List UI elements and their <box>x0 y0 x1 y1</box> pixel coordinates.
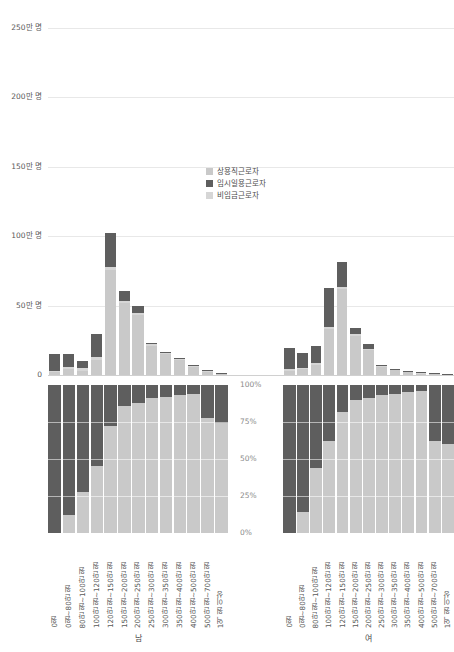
count-bar-segment <box>174 358 185 359</box>
category-label: 150만 원~200만 원 <box>349 562 362 628</box>
category-label-text: 100만 원~120만 원 <box>93 562 100 628</box>
count-bar <box>119 291 130 375</box>
category-label: 400만 원~500만 원 <box>415 562 428 628</box>
percent-axis-tick: 25% <box>240 492 257 500</box>
count-bar-segment <box>132 313 143 315</box>
count-bar <box>284 348 295 375</box>
category-label: 0원~80만 원 <box>296 585 309 628</box>
category-label: 300만 원~350만 원 <box>159 562 173 628</box>
count-bar-segment <box>390 369 401 370</box>
count-bar-segment <box>160 352 171 353</box>
count-bar <box>363 344 374 375</box>
percent-bar-segment <box>201 385 214 418</box>
count-bar-segment <box>337 287 348 289</box>
percent-bar-segment <box>145 385 158 398</box>
count-bar <box>202 370 213 375</box>
count-bar-segment <box>174 359 185 360</box>
count-bar-segment <box>132 315 143 375</box>
percent-bar-segment <box>362 385 374 398</box>
count-bar-segment <box>91 334 102 356</box>
category-label: 300만 원~350만 원 <box>388 562 401 628</box>
count-bar-segment <box>146 344 157 345</box>
percent-gridline <box>48 496 228 497</box>
category-label-text: 200만 원~250만 원 <box>134 562 141 628</box>
count-bar-segment <box>284 369 295 371</box>
category-label-text: 80만 원~100만 원 <box>312 567 319 628</box>
category-label-text: 350만 원~400만 원 <box>176 562 183 628</box>
category-label-text: 120만 원~150만 원 <box>339 562 346 628</box>
percent-gridline <box>283 496 454 497</box>
percent-bar-segment <box>428 385 440 441</box>
count-bar-segment <box>297 369 308 375</box>
count-bar-segment <box>390 369 401 370</box>
category-label-text: 80만 원~100만 원 <box>79 567 86 628</box>
percent-bar-segment <box>62 515 75 533</box>
count-bar-segment <box>202 372 213 375</box>
count-gridline <box>48 375 454 376</box>
percent-bar-segment <box>90 466 103 533</box>
percent-bar-segment <box>336 385 348 412</box>
facet-label-여: 여 <box>283 632 454 643</box>
percent-bar-segment <box>362 398 374 533</box>
category-label: 1억 원 이상 <box>214 591 228 628</box>
category-label-text: 500만 원~700만 원 <box>431 562 438 628</box>
percent-bar-segment <box>215 423 228 533</box>
percent-bar-segment <box>428 441 440 533</box>
count-bar-segment <box>284 348 295 370</box>
category-label: 250만 원~300만 원 <box>375 562 388 628</box>
category-label-text: 1억 원 이상 <box>217 591 224 628</box>
category-label: 500만 원~700만 원 <box>428 562 441 628</box>
percent-bar-segment <box>131 385 144 403</box>
legend-swatch-0 <box>206 168 213 175</box>
count-bar-segment <box>429 373 440 374</box>
count-bar-segment <box>63 369 74 375</box>
count-bar-segment <box>337 262 348 287</box>
category-label-text: 0원 <box>286 616 293 628</box>
count-bar-segment <box>160 353 171 354</box>
percent-gridline <box>48 459 228 460</box>
count-bar-segment <box>63 354 74 367</box>
percent-bar-segment <box>76 385 89 492</box>
category-label: 250만 원~300만 원 <box>145 562 159 628</box>
category-label: 200만 원~250만 원 <box>362 562 375 628</box>
category-label: 100만 원~120만 원 <box>90 562 104 628</box>
percent-bar-segment <box>323 385 335 441</box>
count-bar-segment <box>350 328 361 334</box>
count-bar <box>146 343 157 375</box>
count-bar-segment <box>174 360 185 375</box>
category-label: 200만 원~250만 원 <box>131 562 145 628</box>
count-bar <box>416 372 427 375</box>
category-label-band-여: 0원0원~80만 원80만 원~100만 원100만 원~120만 원120만 … <box>283 536 454 628</box>
percent-bar-segment <box>375 395 387 533</box>
count-bar <box>403 371 414 375</box>
count-bar-segment <box>119 303 130 375</box>
percent-bar-segment <box>159 397 172 533</box>
count-axis-tick: 250만 명 <box>0 24 42 32</box>
category-label-text: 250만 원~300만 원 <box>378 562 385 628</box>
count-bar-segment <box>324 327 335 329</box>
count-axis-tick: 100만 명 <box>0 232 42 240</box>
category-label-text: 300만 원~350만 원 <box>162 562 169 628</box>
count-bar-segment <box>132 306 143 314</box>
category-label-text: 350만 원~400만 원 <box>404 562 411 628</box>
category-label-band-남: 0원0원~80만 원80만 원~100만 원100만 원~120만 원120만 … <box>48 536 228 628</box>
count-bar-segment <box>146 346 157 375</box>
count-bar-segment <box>311 346 322 363</box>
percent-axis-tick: 75% <box>240 418 257 426</box>
legend-item: 상용직근로자 <box>206 166 266 177</box>
percent-bar-segment <box>145 398 158 533</box>
count-axis-tick: 200만 명 <box>0 93 42 101</box>
percent-bar-segment <box>441 385 453 444</box>
legend-item: 임시일용근로자 <box>206 178 266 189</box>
count-bar-segment <box>91 357 102 360</box>
legend-item: 비임금근로자 <box>206 190 266 201</box>
percent-bar-segment <box>90 385 103 466</box>
percent-bar-segment <box>402 385 414 392</box>
count-bar-segment <box>350 334 361 336</box>
category-label: 350만 원~400만 원 <box>401 562 414 628</box>
percent-bar-segment <box>118 406 131 533</box>
count-bar-segment <box>363 349 374 350</box>
percent-bar-segment <box>173 395 186 533</box>
percent-bar-segment <box>215 385 228 423</box>
category-label: 0원 <box>48 616 62 628</box>
